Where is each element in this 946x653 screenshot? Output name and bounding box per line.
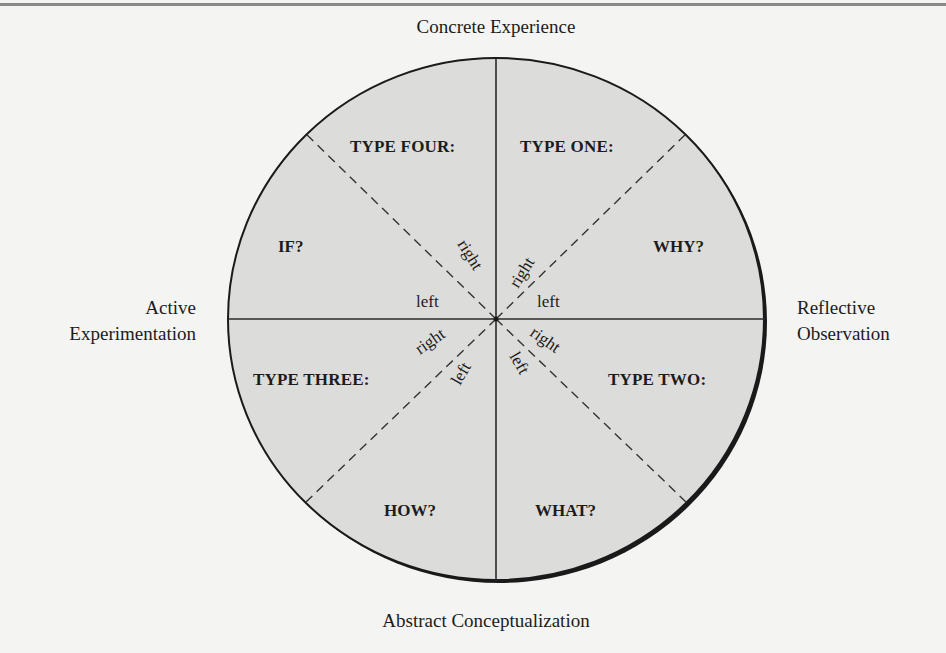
label-ul-left: left bbox=[416, 292, 439, 311]
label-if: IF? bbox=[278, 237, 304, 256]
label-why: WHY? bbox=[653, 237, 704, 256]
label-abstract-conceptualization: Abstract Conceptualization bbox=[382, 610, 590, 631]
label-concrete-experience: Concrete Experience bbox=[417, 16, 576, 37]
label-how: HOW? bbox=[384, 501, 436, 520]
label-observation: Observation bbox=[797, 323, 890, 344]
label-type-four: TYPE FOUR: bbox=[350, 137, 455, 156]
center-point bbox=[494, 317, 499, 322]
label-reflective: Reflective bbox=[797, 297, 875, 318]
label-ur-left: left bbox=[537, 292, 560, 311]
label-type-three: TYPE THREE: bbox=[253, 370, 370, 389]
label-experimentation: Experimentation bbox=[69, 323, 196, 344]
label-type-one: TYPE ONE: bbox=[520, 137, 614, 156]
label-what: WHAT? bbox=[535, 501, 596, 520]
label-type-two: TYPE TWO: bbox=[608, 370, 706, 389]
learning-cycle-diagram: Concrete Experience Abstract Conceptuali… bbox=[0, 0, 946, 653]
label-active: Active bbox=[145, 297, 196, 318]
